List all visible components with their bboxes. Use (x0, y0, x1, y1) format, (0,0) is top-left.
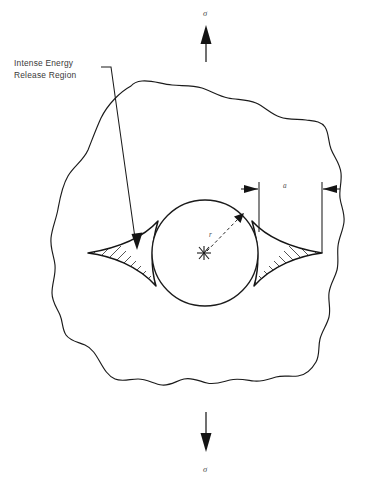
radius-label: r (209, 231, 212, 239)
stress-label-bottom: σ (203, 464, 207, 474)
tensile-load-arrowhead-bottom-icon (201, 433, 212, 452)
callout-label-line-2: Release Region (14, 70, 76, 80)
callout-label-line-1: Intense Energy (14, 58, 73, 68)
fracture-mechanics-figure: Intense EnergyRelease Region σ σ r a (0, 0, 384, 485)
energy-release-region-label: Intense EnergyRelease Region (14, 58, 76, 81)
stress-label-top: σ (203, 8, 207, 18)
crack-length-label: a (283, 182, 287, 190)
tensile-load-arrowhead-top-icon (201, 25, 212, 44)
